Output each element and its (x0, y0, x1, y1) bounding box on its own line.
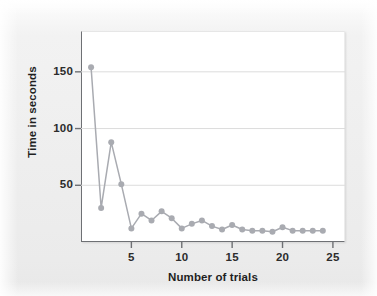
data-point (209, 223, 215, 229)
data-point (128, 225, 134, 231)
gridlines (81, 72, 345, 185)
data-point (280, 224, 286, 230)
data-point (199, 217, 205, 223)
data-point (219, 227, 225, 233)
x-tick-label: 5 (118, 251, 144, 263)
data-point (229, 222, 235, 228)
data-point (259, 228, 265, 234)
data-point (88, 64, 94, 70)
data-point (149, 217, 155, 223)
data-point (320, 228, 326, 234)
data-point (239, 227, 245, 233)
data-point (249, 228, 255, 234)
y-tick-label: 150 (39, 65, 73, 77)
x-tick-label: 25 (320, 251, 346, 263)
data-point (189, 221, 195, 227)
data-markers (88, 64, 326, 234)
y-tick-label: 100 (39, 122, 73, 134)
y-axis-title: Time in seconds (26, 52, 38, 172)
y-tick-label: 50 (39, 178, 73, 190)
data-point (310, 228, 316, 234)
data-line (91, 67, 323, 231)
data-point (169, 215, 175, 221)
figure-container: 50100150 510152025 Time in seconds Numbe… (0, 0, 377, 296)
x-tick-label: 20 (270, 251, 296, 263)
data-point (269, 229, 275, 235)
data-point (98, 205, 104, 211)
data-point (159, 208, 165, 214)
data-point (300, 228, 306, 234)
x-tick-label: 10 (169, 251, 195, 263)
data-point (118, 181, 124, 187)
data-point (108, 139, 114, 145)
data-point (179, 225, 185, 231)
x-tick-label: 15 (219, 251, 245, 263)
data-point (290, 228, 296, 234)
x-axis-title: Number of trials (81, 271, 345, 283)
data-point (138, 211, 144, 217)
